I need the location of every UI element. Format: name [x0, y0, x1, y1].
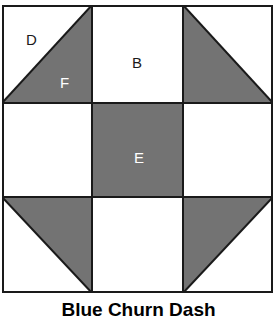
patch-label-e: E	[134, 150, 144, 165]
patch-label-f: F	[60, 75, 69, 90]
block-caption: Blue Churn Dash	[0, 300, 277, 319]
quilt-block-figure: D F B E Blue Churn Dash	[0, 0, 277, 319]
patch-label-b: B	[132, 55, 142, 70]
patch-label-d: D	[26, 32, 37, 47]
quilt-block-diagram: D F B E	[2, 5, 273, 293]
